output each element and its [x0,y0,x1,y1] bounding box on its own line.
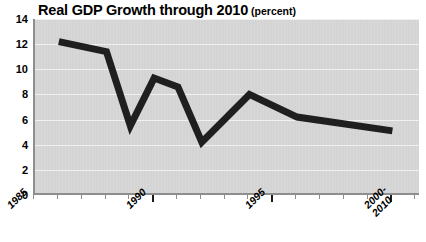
x-axis-minor-tick [33,195,34,199]
y-axis-tick-label: 10 [16,63,28,75]
chart-units-label: (percent) [251,5,296,17]
x-axis-major-tick [152,195,154,202]
x-axis-minor-tick [295,195,296,199]
y-axis-tick-label: 4 [22,139,28,151]
page-title: Real GDP Growth through 2010 [38,2,248,18]
chart-root: Real GDP Growth through 2010(percent) 14… [0,0,426,242]
y-axis-tick-label: 14 [16,13,28,25]
y-axis-tick-label: 12 [16,38,28,50]
x-axis-minor-tick [105,195,106,199]
x-axis-minor-tick [343,195,344,199]
data-line [59,42,393,143]
x-axis-major-tick [271,195,273,202]
y-axis-tick-label: 8 [22,88,28,100]
x-axis-minor-tick [319,195,320,199]
x-axis-minor-tick [414,195,415,199]
chart-title-row: Real GDP Growth through 2010(percent) [38,1,296,19]
x-axis-minor-tick [224,195,225,199]
y-axis-tick-label: 6 [22,114,28,126]
y-axis-tick-label: 2 [22,164,28,176]
series-line-gdp-growth [35,19,419,193]
x-axis-minor-tick [176,195,177,199]
x-axis-minor-tick [57,195,58,199]
plot-area [33,19,419,195]
x-axis: 1985199019952000-2010 [0,195,426,242]
plot-inner [35,19,419,193]
x-axis-minor-tick [81,195,82,199]
x-axis-minor-tick [200,195,201,199]
